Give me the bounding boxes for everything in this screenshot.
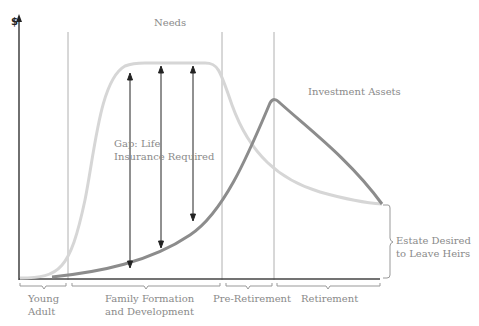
stage-young-adult-line2: Adult — [28, 305, 55, 318]
investment-assets-label: Investment Assets — [308, 85, 401, 98]
investment-assets-curve — [52, 100, 382, 277]
estate-label-line1: Estate Desired — [396, 234, 471, 247]
gap-label-line2: Insurance Required — [114, 150, 214, 163]
stage-family-line2: and Development — [105, 305, 194, 318]
needs-label: Needs — [154, 16, 186, 29]
life-cycle-diagram — [0, 0, 479, 326]
arrow-up-icon — [128, 73, 133, 80]
y-axis-label: $ — [11, 16, 18, 27]
stage-family-line1: Family Formation — [105, 292, 194, 305]
arrow-up-icon — [159, 66, 164, 73]
stage-young-adult-line1: Young — [28, 292, 59, 305]
arrow-up-icon — [191, 66, 196, 73]
gap-label-line1: Gap: Life — [114, 137, 160, 150]
stage-retirement: Retirement — [301, 292, 358, 305]
arrow-down-icon — [128, 261, 133, 268]
arrow-down-icon — [159, 241, 164, 248]
estate-label-line2: to Leave Heirs — [396, 247, 470, 260]
stage-pre-retirement: Pre-Retirement — [213, 292, 291, 305]
stage-braces — [20, 283, 380, 289]
estate-brace — [383, 205, 393, 278]
arrow-down-icon — [191, 214, 196, 221]
